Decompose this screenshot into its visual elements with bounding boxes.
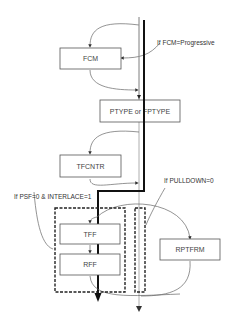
pulldown-condition-leader bbox=[146, 188, 165, 225]
fcm-out-curve bbox=[90, 70, 137, 90]
ptype-label: PTYPE or FPTYPE bbox=[110, 108, 171, 115]
tfcntr-out-curve bbox=[90, 179, 137, 185]
alt-path-arrow bbox=[136, 306, 142, 312]
tfcntr-label: TFCNTR bbox=[77, 163, 105, 170]
rptfrm-box: RPTFRM bbox=[160, 239, 220, 260]
rff-box: RFF bbox=[60, 254, 120, 275]
pulldown-condition: If PULLDOWN=0 bbox=[164, 177, 214, 184]
fcm-box: FCM bbox=[60, 48, 121, 69]
fcm-progressive-condition: If FCM=Progressive bbox=[157, 39, 215, 47]
pulldown-group bbox=[135, 208, 145, 292]
ptype-in-arrow bbox=[137, 95, 141, 99]
rff-label: RFF bbox=[83, 261, 97, 268]
psf-interlace-condition: If PSF=0 & INTERLACE=1 bbox=[14, 193, 92, 200]
tfcntr-box: TFCNTR bbox=[60, 155, 121, 177]
tfcntr-in-curve bbox=[90, 131, 139, 153]
flow-diagram: FCM PTYPE or FPTYPE TFCNTR TFF RFF RPTFR… bbox=[0, 0, 233, 323]
fcm-condition-leader bbox=[122, 43, 160, 58]
tff-label: TFF bbox=[84, 231, 97, 238]
tff-box: TFF bbox=[60, 224, 120, 244]
tff-in-curve bbox=[90, 217, 97, 222]
psf-condition-leader bbox=[34, 192, 53, 249]
rptfrm-label: RPTFRM bbox=[175, 246, 204, 253]
main-path-arrow bbox=[95, 293, 102, 302]
fcm-label: FCM bbox=[83, 55, 98, 62]
fcm-in-curve bbox=[90, 24, 139, 46]
ptype-box: PTYPE or FPTYPE bbox=[100, 100, 180, 122]
rptfrm-out-curve bbox=[141, 261, 190, 296]
